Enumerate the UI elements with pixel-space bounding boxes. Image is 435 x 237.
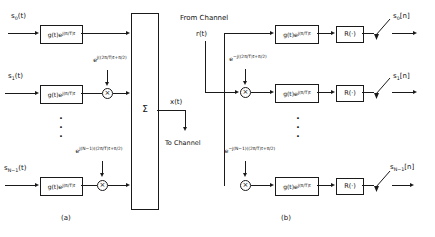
arrowhead-icon	[235, 90, 239, 94]
rx-output-signal-label-n: sN−1[n]	[390, 164, 414, 173]
rx-pulse-filter-block-n: g(t)ej(π/T)t	[275, 177, 319, 196]
rx-output-signal-label-1: s1[n]	[393, 73, 410, 82]
wire	[317, 185, 332, 186]
wire	[392, 92, 415, 93]
caption-b: (b)	[281, 214, 291, 222]
wire	[362, 185, 374, 186]
arrowhead-icon	[35, 31, 39, 35]
arrowhead-icon	[126, 91, 130, 95]
multiplier-icon: ×	[97, 180, 108, 191]
rx-pulse-filter-block-1: g(t)ej(π/T)t	[275, 84, 319, 103]
wire	[317, 92, 332, 93]
tx-carrier-exponent-label-n: ej(N−1)((2π/T)t+π/2)	[76, 147, 123, 154]
arrowhead-icon	[413, 31, 417, 35]
wire	[5, 93, 37, 94]
arrowhead-icon	[243, 81, 247, 85]
summer-symbol: Σ	[132, 104, 158, 114]
wire	[81, 33, 128, 34]
wire	[317, 33, 332, 34]
wire	[251, 185, 272, 186]
tx-pulse-filter-block-n: g(t)ej(π/T)t	[40, 177, 83, 196]
sampler-switch-icon	[374, 77, 394, 101]
multiplier-icon: ×	[102, 88, 113, 99]
tx-carrier-exponent-label-1: ej((2π/T)t+π/2)	[93, 56, 127, 63]
wire	[392, 33, 415, 34]
multicarrier-modem-block-diagram: s0(t) g(t)ej(π/T)t s1(t) g(t)ej(π/T)t ej…	[0, 0, 435, 237]
wire	[205, 92, 236, 93]
arrowhead-icon	[331, 90, 335, 94]
wire	[5, 185, 37, 186]
wire	[8, 33, 37, 34]
rx-output-signal-label-0: s0[n]	[393, 13, 410, 22]
arrowhead-icon	[413, 90, 417, 94]
rx-real-part-block-n: R(·)	[336, 178, 364, 195]
summer-block: Σ	[131, 13, 159, 210]
arrowhead-icon	[331, 183, 335, 187]
tx-input-signal-label-0: s0(t)	[11, 13, 26, 22]
multiplier-icon: ×	[240, 180, 251, 191]
sampler-switch-icon	[374, 170, 394, 194]
wire	[81, 185, 97, 186]
wire	[251, 92, 272, 93]
wire	[205, 41, 206, 92]
multiplier-icon: ×	[240, 87, 251, 98]
arrowhead-icon	[270, 183, 274, 187]
rx-pulse-filter-block-0: g(t)ej(π/T)t	[275, 25, 319, 44]
from-channel-label: From Channel	[180, 15, 228, 22]
rx-carrier-exponent-label-n: e−j(N−1)((2π/T)t+π/2)	[225, 147, 276, 154]
arrowhead-icon	[331, 31, 335, 35]
arrowhead-icon	[35, 91, 39, 95]
arrowhead-icon	[35, 183, 39, 187]
rx-carrier-exponent-label-1: e−j((2π/T)t+π/2)	[229, 55, 266, 62]
tx-output-signal-label: x(t)	[170, 99, 182, 106]
arrowhead-icon	[410, 183, 414, 187]
rx-input-signal-label: r(t)	[196, 31, 207, 38]
wire	[81, 93, 102, 94]
tx-pulse-filter-block-0: g(t)ej(π/T)t	[40, 25, 83, 44]
wire	[157, 110, 186, 111]
arrowhead-icon	[243, 173, 247, 177]
wire	[362, 92, 374, 93]
arrowhead-icon	[270, 31, 274, 35]
wire	[185, 110, 186, 128]
sampler-switch-icon	[374, 18, 394, 42]
tx-input-signal-label-n: sN−1(t)	[4, 165, 27, 174]
arrowhead-icon	[126, 183, 130, 187]
rx-real-part-block-1: R(·)	[336, 85, 364, 102]
wire	[224, 33, 225, 186]
tx-input-signal-label-1: s1(t)	[8, 73, 23, 82]
rx-real-part-block-0: R(·)	[336, 26, 364, 43]
arrowhead-icon	[100, 173, 104, 177]
arrowhead-icon	[126, 31, 130, 35]
arrowhead-icon	[270, 90, 274, 94]
caption-a: (a)	[61, 214, 71, 222]
to-channel-label: To Channel	[165, 140, 201, 147]
wire	[392, 185, 412, 186]
vertical-ellipsis: · · ·	[57, 114, 65, 141]
arrowhead-icon	[105, 82, 109, 86]
vertical-ellipsis: · · ·	[294, 114, 302, 141]
tx-pulse-filter-block-1: g(t)ej(π/T)t	[40, 85, 83, 104]
wire	[362, 33, 374, 34]
wire	[224, 33, 270, 34]
arrowhead-icon	[183, 127, 187, 131]
wire	[108, 185, 128, 186]
